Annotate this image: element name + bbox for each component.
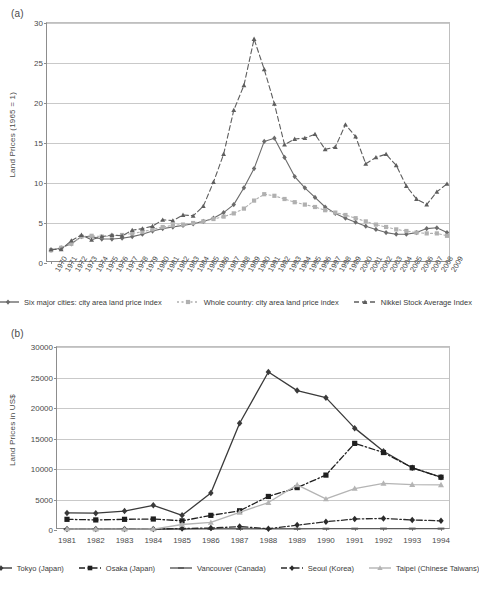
data-point-marker xyxy=(343,122,348,126)
x-axis-tick-label: 1992 xyxy=(375,536,393,545)
data-point-marker xyxy=(384,225,388,229)
data-point-marker xyxy=(242,83,247,87)
data-point-marker xyxy=(445,234,449,238)
data-point-marker xyxy=(64,517,69,522)
data-point-marker xyxy=(381,450,386,455)
data-point-marker xyxy=(352,441,357,446)
data-point-marker xyxy=(201,204,206,208)
y-axis-tick-label: 15000 xyxy=(31,434,53,443)
data-point-marker xyxy=(93,510,98,516)
data-point-marker xyxy=(293,200,297,204)
panel-b-ylabel: Land Prices in US$ xyxy=(8,394,17,466)
data-point-marker xyxy=(333,211,337,215)
data-point-marker xyxy=(381,515,386,522)
x-axis-tick-label: 1983 xyxy=(116,536,134,545)
data-point-marker xyxy=(323,473,328,478)
legend-label: Vancouver (Canada) xyxy=(197,564,266,573)
data-point-marker xyxy=(221,152,226,156)
data-point-marker xyxy=(303,203,307,207)
y-tick-mark xyxy=(54,530,57,531)
data-point-marker xyxy=(414,231,418,235)
legend-item-nikkei: Nikkei Stock Average Index xyxy=(353,297,472,307)
data-point-marker xyxy=(242,207,246,211)
data-point-marker xyxy=(352,516,357,523)
x-axis-tick-label: 1986 xyxy=(202,536,220,545)
legend-label: Taipei (Chinese Taiwans) xyxy=(396,564,479,573)
data-point-marker xyxy=(6,299,10,304)
data-point-marker xyxy=(323,208,327,212)
legend-item-seoul: Seoul (Korea) xyxy=(280,563,354,573)
data-point-marker xyxy=(191,221,195,225)
data-point-marker xyxy=(351,528,358,530)
data-point-marker xyxy=(445,181,450,185)
data-point-marker xyxy=(363,161,368,165)
data-point-marker xyxy=(161,225,165,229)
data-point-marker xyxy=(231,108,236,112)
panel-a-legend: Six major cities: city area land price i… xyxy=(0,297,468,307)
data-point-marker xyxy=(435,231,439,235)
data-point-marker xyxy=(364,224,368,229)
data-point-marker xyxy=(294,387,299,394)
data-point-marker xyxy=(208,525,213,532)
data-point-marker xyxy=(262,139,266,144)
data-point-marker xyxy=(333,145,338,149)
data-point-marker xyxy=(343,213,347,217)
data-point-marker xyxy=(151,516,156,521)
data-point-marker xyxy=(90,234,94,238)
data-point-marker xyxy=(313,205,317,209)
data-point-marker xyxy=(211,217,215,221)
data-point-marker xyxy=(438,475,443,480)
legend-swatch-icon xyxy=(176,297,200,307)
data-point-marker xyxy=(211,180,216,184)
x-axis-tick-label: 1982 xyxy=(87,536,105,545)
data-point-marker xyxy=(435,225,439,230)
data-point-marker xyxy=(353,220,357,225)
panel-a: (a) Land Prices (1965 = 1) 0510152025301… xyxy=(0,0,468,318)
data-point-marker xyxy=(88,566,93,571)
y-axis-tick-label: 15 xyxy=(34,139,43,148)
data-point-marker xyxy=(282,142,287,146)
legend-label: Seoul (Korea) xyxy=(308,564,354,573)
data-point-marker xyxy=(208,513,213,518)
legend-swatch-icon xyxy=(169,563,193,573)
data-point-marker xyxy=(122,508,127,514)
data-point-marker xyxy=(294,522,299,529)
data-point-marker xyxy=(394,232,398,237)
y-axis-tick-label: 20000 xyxy=(31,404,53,413)
legend-swatch-icon xyxy=(280,563,304,573)
data-point-marker xyxy=(171,223,175,227)
x-axis-tick-label: 1993 xyxy=(403,536,421,545)
y-axis-tick-label: 30000 xyxy=(31,343,53,352)
legend-item-osaka: Osaka (Japan) xyxy=(78,563,155,573)
data-point-marker xyxy=(374,227,378,232)
x-axis-tick-label: 1985 xyxy=(173,536,191,545)
x-axis-tick-label: 1994 xyxy=(432,536,450,545)
legend-item-whole-country: Whole country: city area land price inde… xyxy=(176,297,339,307)
data-point-marker xyxy=(0,565,3,571)
data-point-marker xyxy=(178,567,184,569)
data-point-marker xyxy=(404,229,408,233)
series-line xyxy=(67,372,441,515)
data-point-marker xyxy=(266,494,271,499)
series-layer xyxy=(47,23,451,263)
data-point-marker xyxy=(323,528,330,530)
data-point-marker xyxy=(384,230,388,235)
data-point-marker xyxy=(404,184,409,188)
data-point-marker xyxy=(252,37,257,41)
y-axis-tick-label: 20 xyxy=(34,99,43,108)
x-axis-tick-label: 1987 xyxy=(231,536,249,545)
y-axis-tick-label: 5000 xyxy=(35,495,53,504)
series-layer xyxy=(57,347,451,530)
data-point-marker xyxy=(380,528,387,530)
panel-b: (b) Land Prices in US$ 05000100001500020… xyxy=(0,318,468,592)
data-point-marker xyxy=(122,517,127,522)
data-point-marker xyxy=(384,152,389,156)
data-point-marker xyxy=(150,224,155,228)
panel-a-plot-area: 0510152025301970197119721973197419751976… xyxy=(46,22,450,262)
legend-swatch-icon xyxy=(353,297,377,307)
data-point-marker xyxy=(272,101,277,105)
y-tick-mark xyxy=(44,263,47,264)
data-point-marker xyxy=(425,231,429,235)
data-point-marker xyxy=(64,510,69,517)
panel-b-label: (b) xyxy=(11,328,24,339)
